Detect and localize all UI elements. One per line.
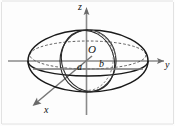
x-axis-label: x [44, 105, 48, 115]
semi-axis-b-label: b [99, 59, 104, 69]
y-axis-label: y [165, 60, 169, 70]
z-axis-label: z [78, 2, 82, 12]
origin-label: O [88, 44, 96, 55]
semi-axis-a-label: a [77, 62, 82, 72]
ellipsoid-diagram-svg [0, 0, 175, 126]
ellipsoid-figure: z y x O a b [0, 0, 175, 126]
